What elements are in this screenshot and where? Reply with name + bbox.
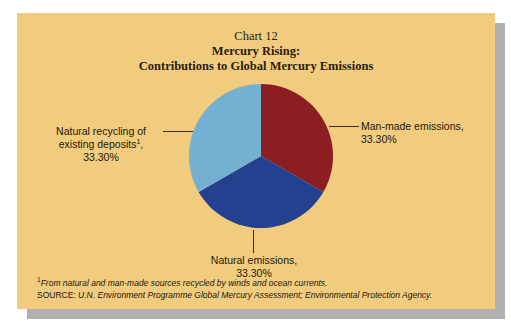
footnote-block: 1From natural and man-made sources recyc… bbox=[37, 277, 477, 301]
label-manmade: Man-made emissions, 33.30% bbox=[361, 120, 491, 146]
label-natural-emissions-line1: Natural emissions, bbox=[183, 254, 325, 267]
chart-subheading: Contributions to Global Mercury Emission… bbox=[17, 59, 495, 74]
source-text: SOURCE: U.N. Environment Programme Globa… bbox=[37, 289, 477, 301]
label-natural-recycling-value: 33.30% bbox=[39, 151, 163, 164]
leader-line-natural-emissions bbox=[253, 230, 254, 253]
footnote-text: 1From natural and man-made sources recyc… bbox=[37, 277, 477, 289]
label-manmade-value: 33.30% bbox=[361, 133, 491, 146]
footnote-body: From natural and man-made sources recycl… bbox=[41, 278, 328, 288]
pie-chart-svg bbox=[188, 83, 334, 229]
chart-heading: Mercury Rising: bbox=[17, 44, 495, 59]
source-body: U.N. Environment Programme Global Mercur… bbox=[78, 290, 432, 300]
label-natural-recycling: Natural recycling of existing deposits1,… bbox=[39, 125, 163, 164]
leader-line-natural-recycling bbox=[163, 131, 193, 132]
label-natural-recycling-line2: existing deposits1, bbox=[39, 138, 163, 151]
pie-chart bbox=[188, 83, 334, 229]
label-natural-recycling-comma: , bbox=[140, 138, 143, 150]
label-natural-recycling-deposits: existing deposits bbox=[59, 138, 137, 150]
chart-number: Chart 12 bbox=[17, 29, 495, 44]
leader-line-manmade bbox=[329, 126, 359, 127]
source-label: SOURCE: bbox=[37, 290, 76, 300]
chart-title-block: Chart 12 Mercury Rising: Contributions t… bbox=[17, 29, 495, 74]
label-manmade-line1: Man-made emissions, bbox=[361, 120, 491, 133]
chart-card: Chart 12 Mercury Rising: Contributions t… bbox=[17, 13, 495, 309]
label-natural-recycling-line1: Natural recycling of bbox=[39, 125, 163, 138]
